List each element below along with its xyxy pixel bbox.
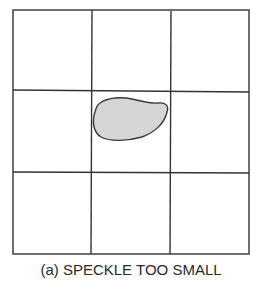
figure-caption: (a) SPECKLE TOO SMALL xyxy=(0,261,262,278)
grid-hline-1 xyxy=(13,90,249,92)
grid-vline-1 xyxy=(91,10,92,254)
speckle-blob xyxy=(93,98,167,141)
grid-vline-2 xyxy=(170,11,171,254)
grid-hline-2 xyxy=(13,172,249,173)
